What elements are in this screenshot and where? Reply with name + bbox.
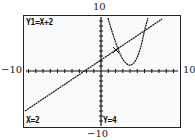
cursor-y-label: Y=4: [103, 116, 117, 125]
line-y1: [25, 19, 162, 111]
equation-label: Y1=X+2: [26, 18, 53, 27]
graph-plot: [24, 16, 180, 127]
xmin-label: −10: [1, 64, 22, 75]
cursor-x-label: X=2: [26, 116, 40, 125]
xmax-label: 10: [183, 64, 195, 75]
trace-cursor: [113, 47, 119, 53]
ymax-label: 10: [93, 1, 106, 12]
ymin-label: −10: [87, 128, 108, 139]
calculator-graph-screen: Y1=X+2 X=2 Y=4: [23, 15, 181, 128]
parabola-curve: [108, 18, 148, 65]
